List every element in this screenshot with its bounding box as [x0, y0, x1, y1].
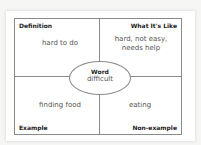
- example-text: finding food: [25, 101, 95, 110]
- non-example-label: Non-example: [132, 124, 177, 131]
- example-label: Example: [19, 124, 48, 131]
- center-word: difficult: [70, 75, 130, 83]
- characteristics-label: What It's Like: [131, 22, 177, 29]
- characteristics-line2: needs help: [101, 44, 181, 53]
- non-example-text: eating: [105, 101, 175, 110]
- center-word-oval: Word difficult: [69, 61, 131, 95]
- characteristics-line1: hard, not easy,: [101, 35, 181, 44]
- definition-label: Definition: [19, 22, 52, 29]
- definition-text: hard to do: [25, 39, 95, 48]
- center-label: Word: [70, 68, 130, 75]
- frayer-model: Definition hard to do What It's Like har…: [14, 18, 182, 135]
- characteristics-text: hard, not easy, needs help: [101, 35, 181, 53]
